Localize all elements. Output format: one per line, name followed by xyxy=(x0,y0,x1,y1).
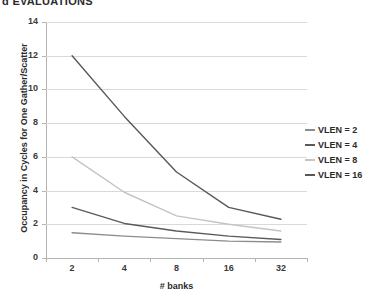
y-tick-mark xyxy=(42,56,46,57)
x-tick-mark xyxy=(150,258,151,262)
y-tick-mark xyxy=(42,224,46,225)
legend-label: VLEN = 2 xyxy=(318,125,357,135)
legend-label: VLEN = 16 xyxy=(318,170,362,180)
x-axis-title: # banks xyxy=(46,281,307,291)
x-tick-label: 2 xyxy=(52,263,92,273)
x-tick-label: 8 xyxy=(157,263,197,273)
y-tick-mark xyxy=(42,191,46,192)
chart-figure: d EVALUATIONS 02468101214 2481632 # bank… xyxy=(0,0,375,303)
series-line xyxy=(72,56,281,220)
y-tick-mark xyxy=(42,22,46,23)
x-tick-mark xyxy=(98,258,99,262)
series-lines xyxy=(46,22,307,258)
y-tick-label: 0 xyxy=(12,253,38,262)
y-axis-title: Occupancy in Cycles for One Gather/Scatt… xyxy=(19,31,29,246)
y-tick-mark xyxy=(42,123,46,124)
legend-swatch xyxy=(305,159,315,161)
legend-item: VLEN = 16 xyxy=(305,167,375,182)
x-tick-label: 16 xyxy=(209,263,249,273)
legend-swatch xyxy=(305,144,315,146)
y-tick-mark xyxy=(42,157,46,158)
series-line xyxy=(72,157,281,231)
x-tick-mark xyxy=(255,258,256,262)
legend: VLEN = 2VLEN = 4VLEN = 8VLEN = 16 xyxy=(305,122,375,182)
legend-swatch xyxy=(305,129,315,131)
page-heading-cropped: d EVALUATIONS xyxy=(0,0,170,9)
legend-swatch xyxy=(305,174,315,176)
legend-item: VLEN = 2 xyxy=(305,122,375,137)
legend-label: VLEN = 4 xyxy=(318,140,357,150)
x-tick-mark xyxy=(46,258,47,262)
x-tick-mark xyxy=(203,258,204,262)
x-tick-label: 4 xyxy=(104,263,144,273)
y-tick-label: 14 xyxy=(12,17,38,26)
legend-item: VLEN = 8 xyxy=(305,152,375,167)
x-tick-label: 32 xyxy=(261,263,301,273)
y-tick-mark xyxy=(42,89,46,90)
legend-item: VLEN = 4 xyxy=(305,137,375,152)
legend-label: VLEN = 8 xyxy=(318,155,357,165)
grid-line xyxy=(46,258,307,259)
x-tick-mark xyxy=(307,258,308,262)
